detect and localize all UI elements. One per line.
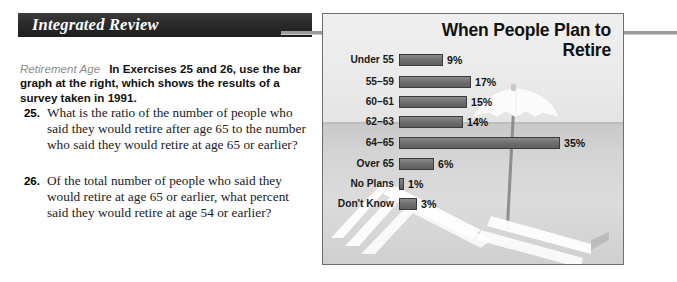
section-header-bar: Integrated Review	[18, 13, 312, 37]
bar-row: Don't Know3%	[323, 197, 623, 211]
bar-category-label: 55–59	[323, 75, 394, 89]
bar-row: 60–6115%	[323, 95, 623, 109]
bar-value-label: 3%	[421, 197, 436, 211]
bar-row: 62–6314%	[323, 115, 623, 129]
exercise-number: 26.	[18, 173, 40, 189]
bar-rect	[399, 198, 417, 210]
bar-value-label: 9%	[447, 53, 462, 67]
bar-row: Under 559%	[323, 53, 623, 67]
bar-category-label: 64–65	[323, 136, 394, 150]
bar-value-label: 1%	[408, 177, 423, 191]
exercise-item-26: 26. Of the total number of people who sa…	[18, 173, 310, 222]
exercise-number: 25.	[18, 105, 40, 121]
bar-value-label: 15%	[471, 95, 492, 109]
bar-value-label: 17%	[475, 75, 496, 89]
left-text-column: Integrated Review Retirement AgeIn Exerc…	[0, 0, 322, 282]
exercise-item-25: 25. What is the ratio of the number of p…	[18, 105, 310, 154]
bar-category-label: 60–61	[323, 95, 394, 109]
bar-value-label: 6%	[438, 157, 453, 171]
bar-row: No Plans1%	[323, 177, 623, 191]
bar-row: 55–5917%	[323, 75, 623, 89]
bar-value-label: 35%	[564, 136, 585, 150]
bar-row: 64–6535%	[323, 136, 623, 150]
bar-rect	[399, 76, 471, 88]
bar-category-label: 62–63	[323, 115, 394, 129]
exercise-text: Of the total number of people who said t…	[47, 173, 310, 222]
bar-row: Over 656%	[323, 157, 623, 171]
intro-paragraph: Retirement AgeIn Exercises 25 and 26, us…	[20, 62, 302, 106]
topic-label: Retirement Age	[20, 62, 100, 75]
bar-rect	[399, 116, 463, 128]
section-header-title: Integrated Review	[32, 15, 159, 35]
bar-category-label: Over 65	[323, 157, 394, 171]
bar-category-label: Don't Know	[323, 197, 394, 211]
bar-value-label: 14%	[467, 115, 488, 129]
bar-series-group: Under 559%55–5917%60–6115%62–6314%64–653…	[323, 14, 623, 264]
bar-chart-panel: When People Plan to Retire Under 559%55–…	[322, 13, 624, 265]
bar-category-label: No Plans	[323, 177, 394, 191]
bar-rect	[399, 158, 434, 170]
bar-rect	[399, 96, 467, 108]
bar-category-label: Under 55	[323, 53, 394, 67]
bar-rect	[399, 54, 443, 66]
exercise-text: What is the ratio of the number of peopl…	[47, 105, 310, 154]
bar-rect	[399, 178, 404, 190]
bar-rect	[399, 137, 560, 149]
